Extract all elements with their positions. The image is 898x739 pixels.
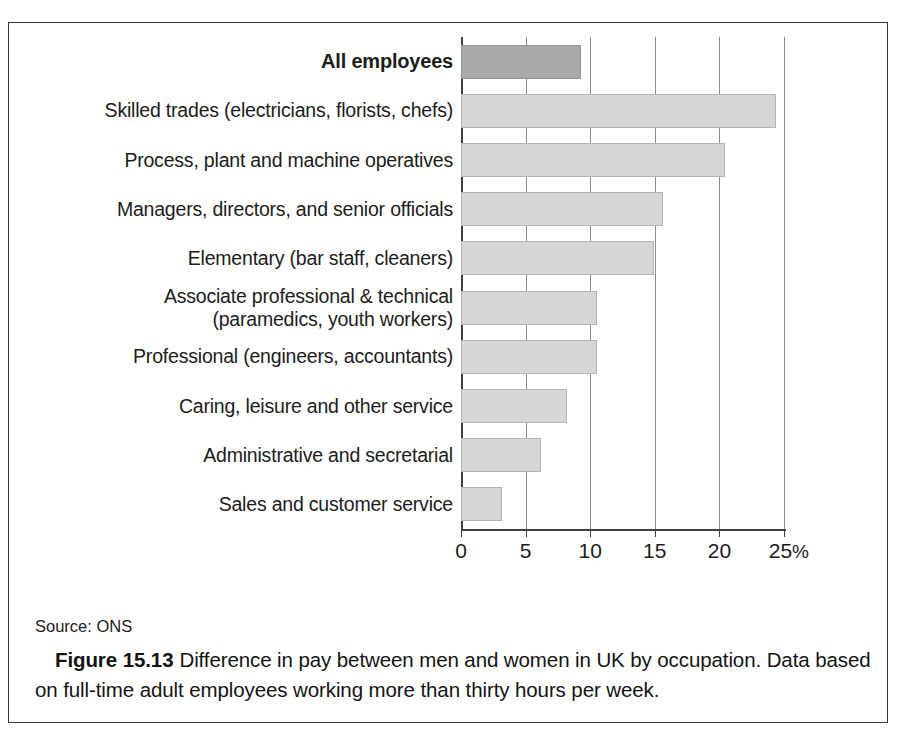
category-label: Administrative and secretarial xyxy=(13,444,453,467)
category-label: All employees xyxy=(13,50,453,73)
x-tick-label-20: 20 xyxy=(708,539,731,563)
bar xyxy=(461,389,567,423)
x-tick-20 xyxy=(719,531,720,537)
bar xyxy=(461,192,663,226)
x-tick-label-5: 5 xyxy=(520,539,532,563)
bar xyxy=(461,143,725,177)
x-tick-25 xyxy=(784,531,785,537)
gridline-25 xyxy=(784,37,785,529)
x-tick-5 xyxy=(526,531,527,537)
x-tick-0 xyxy=(461,531,462,537)
figure-caption: Figure 15.13Difference in pay between me… xyxy=(35,645,873,705)
plot-inner xyxy=(461,37,784,529)
x-tick-label-10: 10 xyxy=(579,539,602,563)
x-axis-unit: % xyxy=(792,541,809,562)
category-label: Elementary (bar staff, cleaners) xyxy=(13,247,453,270)
category-label: Associate professional & technical (para… xyxy=(13,285,453,331)
bar xyxy=(461,241,654,275)
category-label: Sales and customer service xyxy=(13,493,453,516)
figure-number: Figure 15.13 xyxy=(35,648,179,671)
x-axis-line xyxy=(461,529,786,531)
category-label: Skilled trades (electricians, florists, … xyxy=(13,99,453,122)
x-tick-label-0: 0 xyxy=(455,539,467,563)
bar xyxy=(461,291,597,325)
bar-chart: All employeesSkilled trades (electrician… xyxy=(9,37,889,567)
category-label: Managers, directors, and senior official… xyxy=(13,198,453,221)
figure-frame: All employeesSkilled trades (electrician… xyxy=(8,22,888,723)
category-label: Caring, leisure and other service xyxy=(13,395,453,418)
bar xyxy=(461,45,581,79)
x-tick-label-25: 25% xyxy=(769,539,809,563)
bar xyxy=(461,438,541,472)
bar xyxy=(461,94,776,128)
bar xyxy=(461,340,597,374)
source-label: Source: ONS xyxy=(35,617,132,636)
category-label: Professional (engineers, accountants) xyxy=(13,345,453,368)
x-tick-label-15: 15 xyxy=(643,539,666,563)
category-label: Process, plant and machine operatives xyxy=(13,149,453,172)
category-labels: All employeesSkilled trades (electrician… xyxy=(9,37,453,537)
plot-area: 0510152025% xyxy=(461,37,786,537)
x-tick-10 xyxy=(590,531,591,537)
x-tick-15 xyxy=(655,531,656,537)
bar xyxy=(461,487,502,521)
